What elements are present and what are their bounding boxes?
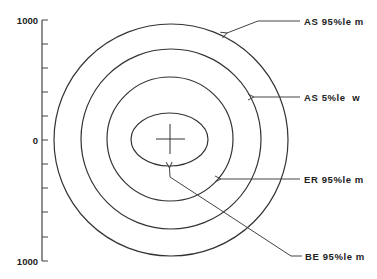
callout-as-5: AS 5%le w — [254, 92, 360, 103]
contour-diagram: 1000 0 1000 AS 95%le m AS 5%le w — [0, 0, 377, 279]
contours — [54, 24, 288, 256]
center-cross-icon — [156, 124, 185, 154]
callout-label-be-95: BE 95%le m — [305, 251, 365, 262]
contour-as-95 — [54, 24, 288, 256]
axis-label-top: 1000 — [17, 15, 38, 26]
axis-label-center: 0 — [33, 135, 38, 146]
callout-label-as-5: AS 5%le w — [304, 92, 360, 103]
callout-label-er-95: ER 95%le m — [304, 174, 364, 185]
axis-label-bottom: 1000 — [17, 256, 38, 267]
scale-axis: 1000 0 1000 — [17, 15, 48, 267]
callout-er-95: ER 95%le m — [221, 174, 364, 185]
callout-label-as-95: AS 95%le m — [304, 16, 364, 27]
callout-as-95: AS 95%le m — [227, 16, 364, 34]
